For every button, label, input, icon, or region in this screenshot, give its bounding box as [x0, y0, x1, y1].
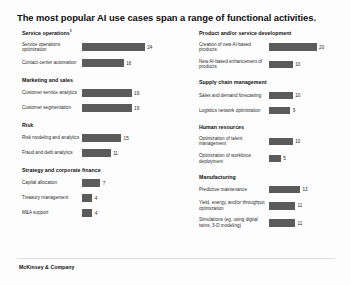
bar-value: 24: [147, 45, 152, 50]
bar-label: Yield, energy, and/or throughput optimiz…: [199, 200, 269, 211]
bar: [82, 149, 111, 156]
chart-section: Human resourcesOptimization of talent ma…: [199, 124, 345, 164]
section-title: Human resources: [199, 124, 345, 130]
bar-value: 19: [134, 91, 139, 96]
bar-area: 20: [269, 43, 345, 50]
right-column: Product and/or service developmentCreati…: [199, 30, 345, 238]
chart-row: Customer service analytics19: [22, 89, 180, 98]
bar-label: Simulations (eg, using digital twins, 3-…: [199, 217, 269, 228]
bar-area: 11: [82, 149, 180, 156]
chart-section: ManufacturingPredictive maintenance13Yie…: [199, 174, 345, 229]
chart-page: The most popular AI use cases span a ran…: [0, 0, 351, 285]
bar-label: Fraud and debt analytics: [22, 150, 82, 156]
bar-value: 5: [283, 156, 286, 161]
bar-area: 4: [82, 194, 180, 201]
bar-label: Risk modeling and analytics: [22, 135, 82, 141]
bar-label: Customer service analytics: [22, 90, 82, 96]
chart-section: Product and/or service developmentCreati…: [199, 30, 345, 70]
section-title: Supply chain management: [199, 79, 345, 85]
chart-section: Service operations1Service operations op…: [22, 30, 180, 68]
bar: [82, 179, 100, 186]
bar: [82, 134, 121, 141]
bar-area: 4: [82, 209, 180, 216]
bar: [269, 155, 281, 162]
bar-label: Sales and demand forecasting: [199, 93, 269, 99]
bar-area: 19: [82, 89, 180, 96]
bar: [269, 43, 317, 50]
chart-row: Yield, energy, and/or throughput optimiz…: [199, 200, 345, 211]
bar: [269, 219, 295, 226]
bar-value: 7: [103, 181, 106, 186]
bar-area: 10: [269, 61, 345, 68]
bar-label: Treasury management: [22, 195, 82, 201]
bar-area: 16: [82, 59, 180, 66]
chart-section: Marketing and salesCustomer service anal…: [22, 77, 180, 113]
chart-row: Optimization of talent management10: [199, 136, 345, 147]
bar-area: 7: [82, 179, 180, 186]
section-title: Strategy and corporate finance: [22, 167, 180, 173]
bar-value: 4: [95, 211, 98, 216]
section-title: Service operations1: [22, 30, 180, 36]
bar: [269, 186, 300, 193]
bar-label: Logistics network optimization: [199, 108, 269, 114]
chart-row: Capital allocation7: [22, 179, 180, 188]
bar-label: Optimization of talent management: [199, 136, 269, 147]
bar-area: 15: [82, 134, 180, 141]
page-title: The most popular AI use cases span a ran…: [17, 12, 342, 23]
section-title: Product and/or service development: [199, 30, 345, 36]
section-title-footnote: 1: [70, 29, 72, 33]
brand-footer: McKinsey & Company: [19, 264, 74, 270]
bar-area: 11: [269, 202, 345, 209]
chart-row: Customer segmentation19: [22, 104, 180, 113]
bar-value: 11: [298, 203, 303, 208]
bar-label: Optimization of workforce deployment: [199, 153, 269, 164]
bar-area: 24: [82, 43, 180, 50]
bar-label: Contact-center automation: [22, 60, 82, 66]
bar: [82, 104, 132, 111]
bar-value: 4: [95, 196, 98, 201]
left-column: Service operations1Service operations op…: [22, 30, 180, 227]
bar-label: M&A support: [22, 210, 82, 216]
bar-area: 19: [82, 104, 180, 111]
chart-section: Strategy and corporate financeCapital al…: [22, 167, 180, 218]
chart-row: Contact-center automation16: [22, 59, 180, 68]
chart-row: Creation of new AI-based products20: [199, 42, 345, 53]
bar-value: 11: [113, 151, 118, 156]
bar-value: 9: [293, 108, 296, 113]
bar-label: New AI-based enhancement of products: [199, 59, 269, 70]
bar-area: 11: [269, 219, 345, 226]
footer-divider: [17, 258, 335, 259]
bar-value: 20: [319, 45, 324, 50]
bar: [269, 92, 293, 99]
chart-row: Simulations (eg, using digital twins, 3-…: [199, 217, 345, 228]
chart-row: Predictive maintenance13: [199, 185, 345, 194]
bar: [82, 59, 124, 66]
chart-row: Treasury management4: [22, 194, 180, 203]
chart-row: M&A support4: [22, 209, 180, 218]
bar-label: Capital allocation: [22, 180, 82, 186]
chart-section: Supply chain managementSales and demand …: [199, 79, 345, 115]
bar-area: 5: [269, 155, 345, 162]
bar-value: 19: [134, 106, 139, 111]
bar: [82, 194, 92, 201]
chart-row: Logistics network optimization9: [199, 106, 345, 115]
chart-row: Risk modeling and analytics15: [22, 134, 180, 143]
bar-label: Creation of new AI-based products: [199, 42, 269, 53]
bar: [82, 209, 92, 216]
section-title: Risk: [22, 122, 180, 128]
bar-value: 11: [298, 221, 303, 226]
bar-area: 9: [269, 107, 345, 114]
bar-area: 10: [269, 138, 345, 145]
chart-row: Sales and demand forecasting10: [199, 91, 345, 100]
section-title: Manufacturing: [199, 174, 345, 180]
bar: [269, 107, 290, 114]
bar-value: 15: [124, 136, 129, 141]
section-title: Marketing and sales: [22, 77, 180, 83]
chart-row: New AI-based enhancement of products10: [199, 59, 345, 70]
bar-area: 10: [269, 92, 345, 99]
bar: [269, 61, 293, 68]
bar-label: Service operations optimization: [22, 42, 82, 53]
bar: [269, 202, 295, 209]
bar-value: 13: [302, 187, 307, 192]
bar-value: 10: [295, 62, 300, 67]
